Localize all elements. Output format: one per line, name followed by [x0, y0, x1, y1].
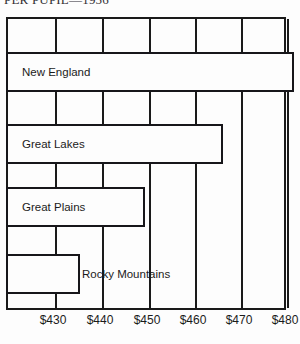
bar-label-great-lakes: Great Lakes — [22, 139, 85, 151]
bar-rocky-mountains — [6, 254, 80, 294]
plot-area: New EnglandGreat LakesGreat PlainsRocky … — [6, 17, 286, 310]
bar-label-great-plains: Great Plains — [22, 202, 85, 214]
x-tick-label-480: $480 — [272, 314, 299, 327]
x-tick-label-470: $470 — [226, 314, 253, 327]
x-tick-label-430: $430 — [40, 314, 67, 327]
chart-page: PER PUPIL—1956 New EnglandGreat LakesGre… — [0, 0, 300, 344]
x-tick-label-450: $450 — [134, 314, 161, 327]
x-tick-label-460: $460 — [180, 314, 207, 327]
chart-title: PER PUPIL—1956 — [4, 0, 109, 8]
bar-label-rocky-mountains: Rocky Mountains — [82, 269, 170, 281]
x-tick-label-440: $440 — [87, 314, 114, 327]
x-axis-tick-labels: $430$440$450$460$470$480 — [0, 314, 300, 338]
bar-label-new-england: New England — [22, 67, 90, 79]
